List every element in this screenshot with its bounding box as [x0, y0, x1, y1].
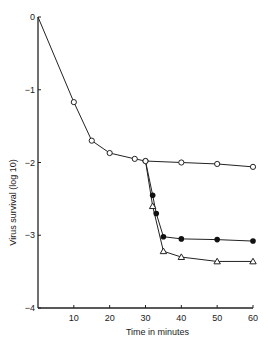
data-point-triangle	[160, 248, 166, 254]
data-point-filled-circle	[214, 237, 220, 243]
x-tick-label: 20	[105, 313, 115, 323]
data-point-filled-circle	[179, 236, 185, 242]
data-point-open-circle	[89, 138, 94, 143]
x-tick-label: 40	[176, 313, 186, 323]
x-tick-label: 10	[69, 313, 79, 323]
data-point-open-circle	[132, 156, 137, 161]
data-point-open-circle	[143, 158, 148, 163]
data-point-filled-circle	[153, 211, 159, 217]
data-point-filled-circle	[250, 238, 256, 244]
data-point-open-circle	[250, 164, 255, 169]
y-tick-label: −4	[25, 303, 35, 313]
virus-survival-chart: 1020304050600−1−2−3−4Time in minutesViru…	[0, 0, 268, 342]
y-axis-label: Virus survival (log 10)	[8, 159, 18, 245]
data-point-open-circle	[107, 150, 112, 155]
y-tick-label: −3	[25, 230, 35, 240]
series-line	[146, 161, 254, 241]
x-tick-label: 30	[140, 313, 150, 323]
data-point-open-circle	[71, 100, 76, 105]
data-point-open-circle	[179, 160, 184, 165]
series-line	[146, 161, 254, 261]
x-tick-label: 60	[248, 313, 258, 323]
y-tick-label: −2	[25, 158, 35, 168]
x-axis-label: Time in minutes	[126, 327, 190, 337]
x-tick-label: 50	[212, 313, 222, 323]
data-point-filled-circle	[150, 192, 156, 198]
data-point-filled-circle	[161, 234, 167, 240]
y-tick-label: 0	[30, 12, 35, 22]
data-point-open-circle	[215, 161, 220, 166]
series-line	[38, 17, 253, 167]
y-tick-label: −1	[25, 85, 35, 95]
